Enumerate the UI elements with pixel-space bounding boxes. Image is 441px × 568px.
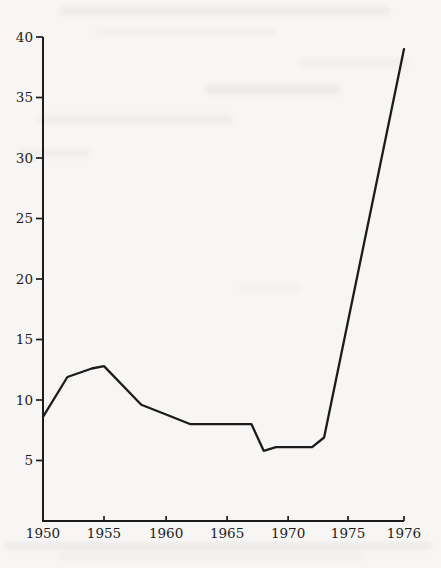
x-tick-label: 1960 (149, 525, 183, 541)
y-tick-label: 15 (16, 331, 33, 347)
y-tick-label: 40 (16, 29, 33, 45)
line-chart: 5101520253035401950195519601965197019751… (0, 0, 441, 568)
y-tick-label: 25 (16, 210, 33, 226)
y-tick-label: 35 (16, 89, 33, 105)
y-tick-label: 5 (24, 452, 33, 468)
x-tick-label: 1950 (26, 525, 60, 541)
y-tick-label: 20 (16, 271, 33, 287)
data-line (43, 49, 404, 451)
scanned-chart-page: 5101520253035401950195519601965197019751… (0, 0, 441, 568)
axis-lines (43, 37, 404, 521)
y-tick-label: 30 (16, 150, 33, 166)
x-tick-label: 1955 (87, 525, 121, 541)
x-tick-label: 1970 (271, 525, 305, 541)
x-tick-label: 1976 (387, 525, 421, 541)
x-tick-label: 1965 (210, 525, 244, 541)
y-tick-label: 10 (16, 392, 33, 408)
x-tick-label: 1975 (331, 525, 365, 541)
